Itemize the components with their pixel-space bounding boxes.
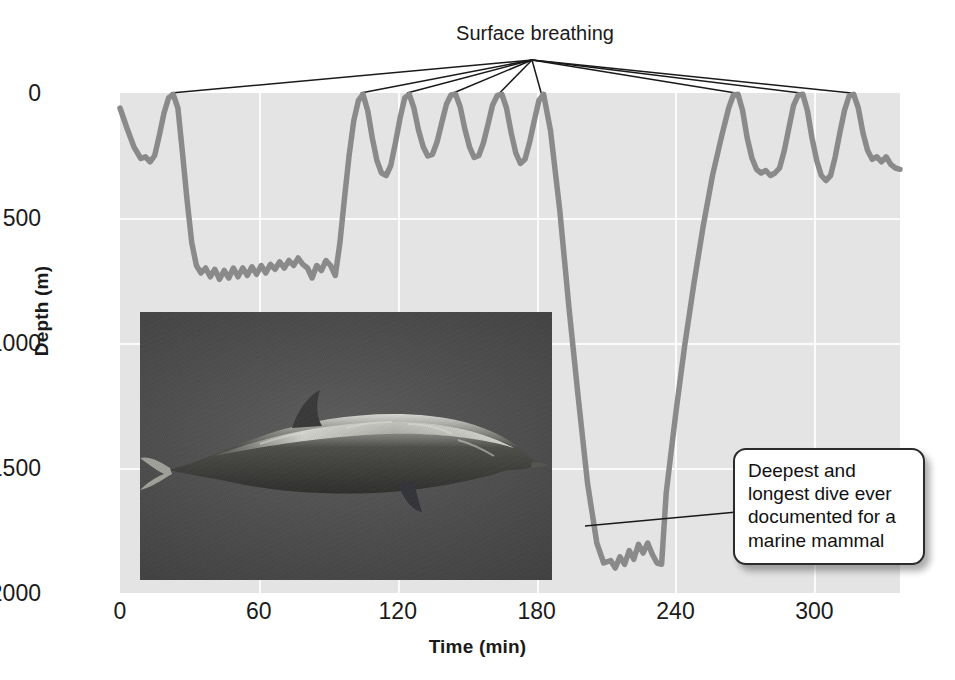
x-tick-label-180: 180 [492,600,582,623]
leader-line-to-surfacing-22 [171,60,532,93]
x-tick-label-300: 300 [769,600,859,623]
leader-line-to-surfacing-316 [532,60,851,93]
leader-line-to-surfacing-164 [500,60,532,93]
surface-breathing-label: Surface breathing [430,22,640,45]
x-tick-label-240: 240 [630,600,720,623]
leader-line-to-surfacing-294 [532,60,801,93]
dive-profile-figure: 0500100015002000 Depth (m) 0601201802403… [0,0,955,680]
photo-film-grain [140,312,552,580]
deepest-dive-callout: Deepest and longest dive ever documented… [733,448,925,565]
cuviers-beaked-whale-photo [140,312,552,580]
leader-line-to-surfacing-182 [532,60,541,93]
callout-line-4: marine mammal [748,529,912,552]
gridline-x-240 [675,93,677,593]
surface-breathing-leader-lines [171,60,852,93]
y-tick-label-500: 500 [0,207,41,230]
x-tick-label-60: 60 [214,600,304,623]
callout-line-1: Deepest and [748,459,912,482]
leader-line-to-surfacing-266 [532,60,736,93]
y-tick-label-0: 0 [0,82,41,105]
leader-line-to-surfacing-144 [453,60,532,93]
x-tick-label-120: 120 [353,600,443,623]
gridline-y-500 [120,218,900,220]
y-tick-label-1500: 1500 [0,457,41,480]
y-tick-label-2000: 2000 [0,582,41,605]
y-axis-title: Depth (m) [31,231,53,391]
callout-line-2: longest dive ever [748,482,912,505]
leader-line-to-surfacing-104 [361,60,532,93]
leader-line-to-surfacing-124 [407,60,532,93]
x-tick-label-0: 0 [75,600,165,623]
x-axis-title: Time (min) [0,636,955,658]
callout-line-3: documented for a [748,505,912,528]
